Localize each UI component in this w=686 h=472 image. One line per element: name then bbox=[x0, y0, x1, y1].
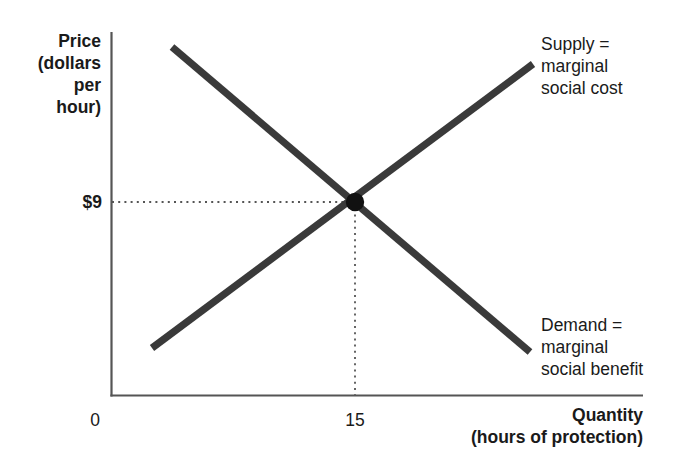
x-axis-title: Quantity(hours of protection) bbox=[383, 404, 643, 448]
x-axis-origin-label: 0 bbox=[78, 409, 112, 431]
equilibrium-point-marker bbox=[346, 193, 364, 211]
supply-demand-chart: Price (dollars per hour) $9 0 15 Quantit… bbox=[0, 0, 686, 472]
y-axis-title: Price (dollars per hour) bbox=[0, 30, 101, 118]
x-axis-title-line2: (hours of protection) bbox=[471, 427, 643, 447]
x-axis-tick-label-quantity: 15 bbox=[334, 409, 376, 431]
supply-curve-label: Supply = marginal social cost bbox=[541, 33, 686, 99]
x-axis-title-line1: Quantity bbox=[572, 405, 643, 425]
demand-curve-label: Demand = marginal social benefit bbox=[541, 314, 686, 380]
y-axis-tick-label-price: $9 bbox=[44, 191, 102, 213]
